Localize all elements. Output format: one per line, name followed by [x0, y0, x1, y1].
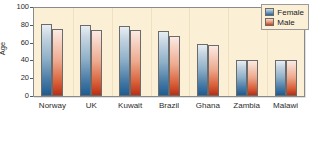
legend-item-female: Female — [265, 7, 304, 17]
bar-uk-female — [80, 25, 91, 96]
group-separator — [112, 8, 113, 96]
bar-chart: Age 020406080100 Female Male NorwayUKKuw… — [0, 0, 315, 145]
x-axis-label-uk: UK — [72, 101, 111, 110]
x-axis-label-ghana: Ghana — [188, 101, 227, 110]
bar-group — [197, 44, 219, 97]
bar-brazil-male — [169, 36, 180, 96]
y-axis-tick-label: 100 — [16, 3, 29, 11]
bar-malawi-female — [275, 60, 286, 96]
bar-kuwait-female — [119, 26, 130, 96]
y-axis-tick-label: 20 — [21, 74, 29, 82]
bar-ghana-male — [208, 45, 219, 96]
bar-norway-male — [52, 29, 63, 96]
y-axis-tick-label: 0 — [25, 92, 29, 100]
y-axis-tick-label: 80 — [21, 21, 29, 29]
y-axis-title: Age — [0, 42, 7, 55]
x-axis-label-kuwait: Kuwait — [111, 101, 150, 110]
x-axis-label-zambia: Zambia — [227, 101, 266, 110]
bar-group — [275, 60, 297, 96]
y-axis-tick-label: 60 — [21, 39, 29, 47]
x-axis-label-malawi: Malawi — [266, 101, 305, 110]
bar-group — [158, 31, 180, 96]
legend-swatch-male-icon — [265, 18, 274, 26]
legend-label-female: Female — [277, 8, 304, 17]
bar-ghana-female — [197, 44, 208, 97]
bar-group — [119, 26, 141, 96]
bar-group — [236, 60, 258, 96]
group-separator — [73, 8, 74, 96]
legend-item-male: Male — [265, 17, 304, 27]
bar-group — [80, 25, 102, 96]
bar-brazil-female — [158, 31, 169, 96]
bar-kuwait-male — [130, 30, 141, 96]
y-axis-tick-label: 40 — [21, 56, 29, 64]
group-separator — [151, 8, 152, 96]
legend-swatch-female-icon — [265, 8, 274, 16]
bar-malawi-male — [286, 60, 297, 96]
x-axis-label-norway: Norway — [33, 101, 72, 110]
legend-label-male: Male — [277, 18, 294, 27]
bar-zambia-female — [236, 60, 247, 96]
chart-legend: Female Male — [261, 4, 309, 30]
bar-group — [41, 24, 63, 96]
bar-norway-female — [41, 24, 52, 96]
bar-uk-male — [91, 30, 102, 96]
y-axis: Age 020406080100 — [0, 0, 33, 105]
group-separator — [228, 8, 229, 96]
bar-zambia-male — [247, 60, 258, 96]
group-separator — [189, 8, 190, 96]
x-axis-label-brazil: Brazil — [150, 101, 189, 110]
